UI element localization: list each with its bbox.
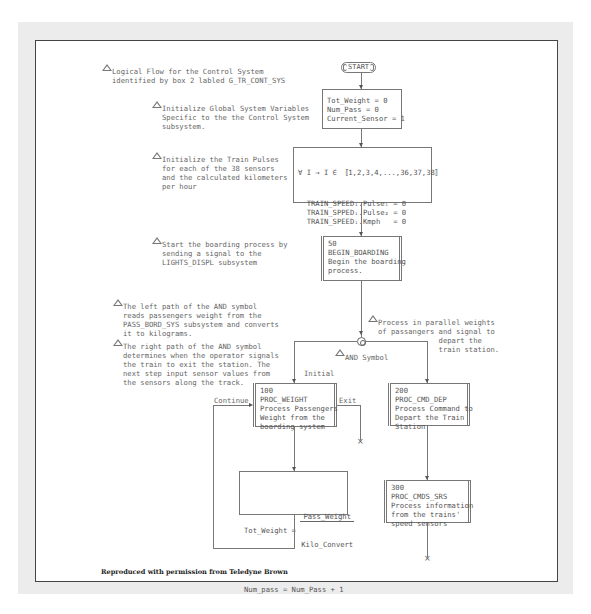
- connector: [427, 341, 428, 383]
- note-title: Logical Flow for the Control System iden…: [112, 67, 285, 85]
- and-symbol-icon: [357, 337, 366, 346]
- connector: [427, 523, 428, 557]
- note-and-symbol: AND Symbol: [345, 353, 388, 362]
- connector: [294, 427, 295, 471]
- arrow-down-icon: [359, 331, 363, 335]
- note-init-pulses: Initialize the Train Pulses for each of …: [162, 155, 288, 191]
- start-terminal: START: [341, 62, 376, 73]
- proc-cmd-dep-box: 200 PROC_CMD_DEP Process Command to Depa…: [388, 383, 470, 426]
- connector: [294, 341, 357, 342]
- note-init-globals: Initialize Global System Variables Speci…: [162, 104, 309, 131]
- pulses-quantifier: ∀ I → I ∈ 〚1,2,3,4,...,36,37,38〛: [298, 168, 427, 177]
- connector: [366, 341, 428, 342]
- init-pulses-box: ∀ I → I ∈ 〚1,2,3,4,...,36,37,38〛 TRAIN_S…: [293, 147, 432, 203]
- init-globals-box: Tot_Weight = 0 Num_Pass = 0 Current_Sens…: [322, 89, 402, 129]
- edge-label-continue: Continue: [214, 396, 249, 405]
- connector: [213, 405, 250, 406]
- connector: [213, 548, 295, 549]
- calc-line2: Num_pass = Num_Pass + 1: [244, 585, 343, 594]
- note-right-path: The right path of the AND symbol determi…: [123, 342, 279, 387]
- terminator-x-icon: ×: [357, 438, 364, 446]
- proc-weight-box: 100 PROC_WEIGHT Process Passengers Weigh…: [253, 383, 337, 427]
- permission-credit: Reproduced with permission from Teledyne…: [101, 568, 288, 576]
- begin-boarding-box: 50 BEGIN_BOARDING Begin the boarding pro…: [321, 236, 402, 281]
- calc-fraction: Pass_Weight Kilo_Convert: [300, 494, 354, 567]
- connector: [361, 281, 362, 337]
- weight-calc-box: Tot_Weight = Pass_Weight Kilo_Convert Nu…: [239, 471, 348, 515]
- calc-denominator: Kilo_Convert: [300, 540, 354, 549]
- terminator-x-icon: ×: [424, 555, 431, 563]
- connector: [294, 341, 295, 383]
- pulses-assignments: TRAIN_SPEEDᵢ.Pulseᵢ = 0 TRAIN_SPPEDᵢ.Pul…: [298, 199, 427, 226]
- edge-label-initial: Initial: [304, 369, 334, 378]
- note-boarding: Start the boarding process by sending a …: [162, 240, 288, 267]
- arrow-right-icon: [249, 403, 253, 407]
- connector: [427, 426, 428, 480]
- calc-numerator: Pass_Weight: [300, 512, 354, 522]
- proc-cmds-srs-box: 300 PROC_CMDS_SRS Process information fr…: [384, 480, 471, 523]
- calc-lhs: Tot_Weight =: [244, 526, 300, 535]
- note-left-path: The left path of the AND symbol reads pa…: [123, 302, 279, 338]
- connector: [360, 405, 361, 440]
- connector: [294, 515, 295, 549]
- note-parallel: Process in parallel weights of passanger…: [378, 318, 499, 354]
- edge-label-exit: Exit: [339, 396, 356, 405]
- connector: [337, 405, 361, 406]
- connector: [213, 405, 214, 549]
